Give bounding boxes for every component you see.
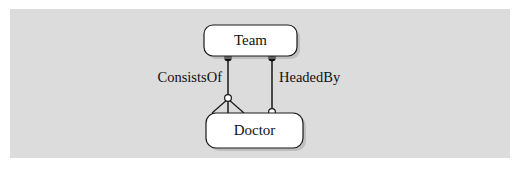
edge-label-headed-by: HeadedBy: [279, 69, 341, 85]
node-team[interactable]: Team: [204, 25, 300, 59]
hollow-marker-consists-of: [225, 95, 232, 102]
uml-class-diagram: ConsistsOf HeadedBy Team Doctor: [0, 0, 521, 169]
node-doctor-label: Doctor: [234, 122, 276, 138]
node-team-label: Team: [234, 32, 267, 48]
edge-label-consists-of: ConsistsOf: [158, 69, 223, 85]
edge-headed-by[interactable]: HeadedBy: [268, 54, 341, 116]
node-doctor[interactable]: Doctor: [206, 113, 306, 151]
diagram-canvas: ConsistsOf HeadedBy Team Doctor: [0, 0, 521, 169]
edge-consists-of[interactable]: ConsistsOf: [158, 54, 244, 113]
